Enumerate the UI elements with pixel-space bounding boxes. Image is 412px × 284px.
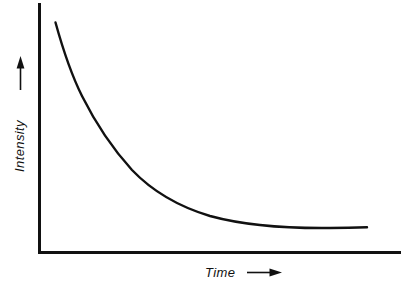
plot-canvas: Intensity Time [0,0,412,284]
x-axis-label-group: Time [205,265,282,280]
intensity-decay-curve [56,23,368,229]
x-axis-label: Time [205,265,235,280]
right-arrow-icon [247,269,282,277]
up-arrow-icon [17,56,25,90]
decay-curve-figure: Intensity Time [0,0,412,284]
y-axis-label-group: Intensity [12,56,27,172]
y-axis-label: Intensity [12,119,27,172]
